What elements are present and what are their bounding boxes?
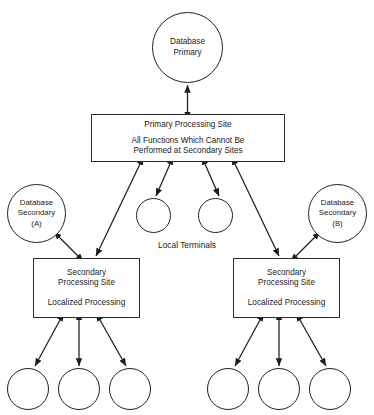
edge-secondaryright-to-terminal-r3: [300, 320, 326, 366]
node-terminal-left-2: [58, 368, 100, 410]
node-secondary-processing-site-right: Secondary Processing Site Localized Proc…: [233, 258, 340, 318]
edge-primarybox-to-secondary-left: [96, 164, 140, 256]
secondary-left-title-line2: Processing Site: [58, 278, 115, 289]
node-secondary-processing-site-left: Secondary Processing Site Localized Proc…: [33, 258, 140, 318]
database-secondary-b-line1: Database: [321, 198, 354, 208]
secondary-left-title-line1: Secondary: [67, 268, 106, 279]
edge-secondaryright-to-terminal-r1: [235, 320, 260, 366]
node-terminal-left-3: [109, 368, 151, 410]
node-database-primary: Database Primary: [152, 12, 223, 83]
node-terminal-right-3: [309, 368, 351, 410]
primary-site-detail-line1: All Functions Which Cannot Be: [132, 136, 245, 147]
secondary-right-detail: Localized Processing: [248, 298, 325, 309]
node-local-terminal-mid-1: [136, 198, 171, 233]
database-primary-line2: Primary: [173, 48, 201, 59]
edge-secondaryleft-to-dbsec-a: [54, 232, 78, 256]
node-terminal-right-2: [258, 368, 300, 410]
primary-site-detail-line2: Performed at Secondary Sites: [133, 146, 242, 157]
edge-primarybox-to-terminal-mid2: [205, 164, 219, 196]
database-secondary-a-line3: (A): [31, 219, 41, 229]
edge-primarybox-to-secondary-right: [235, 164, 279, 256]
edge-primarybox-to-terminal-mid1: [156, 164, 170, 196]
secondary-right-title-line2: Processing Site: [258, 278, 315, 289]
database-secondary-a-line1: Database: [20, 198, 53, 208]
node-terminal-left-1: [7, 368, 49, 410]
node-local-terminal-mid-2: [198, 198, 233, 233]
node-terminal-right-1: [207, 368, 249, 410]
secondary-right-title-line1: Secondary: [267, 268, 306, 279]
database-primary-line1: Database: [170, 37, 205, 48]
primary-site-title: Primary Processing Site: [144, 120, 231, 131]
node-primary-processing-site: Primary Processing Site All Functions Wh…: [91, 114, 285, 162]
node-database-secondary-a: Database Secondary (A): [7, 184, 66, 243]
architecture-diagram: Database Primary Primary Processing Site…: [0, 0, 374, 415]
node-database-secondary-b: Database Secondary (B): [308, 184, 367, 243]
database-secondary-a-line2: Secondary: [18, 208, 55, 218]
edge-secondaryright-to-dbsec-b: [296, 232, 320, 256]
database-secondary-b-line3: (B): [332, 219, 342, 229]
edge-secondaryleft-to-terminal-l1: [35, 320, 60, 366]
local-terminals-label: Local Terminals: [137, 240, 237, 250]
database-secondary-b-line2: Secondary: [319, 208, 356, 218]
secondary-left-detail: Localized Processing: [48, 298, 125, 309]
edge-secondaryleft-to-terminal-l3: [100, 320, 126, 366]
